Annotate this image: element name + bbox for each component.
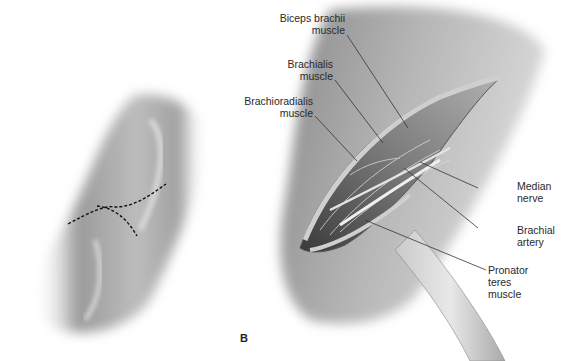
label-median-nerve: Median nerve xyxy=(517,180,569,204)
panel-letter: B xyxy=(240,332,248,344)
label-brachial-artery: Brachial artery xyxy=(517,224,569,248)
label-brachialis: Brachialis muscle xyxy=(255,58,333,82)
illustration xyxy=(0,0,570,361)
panel-a-arm xyxy=(35,94,206,332)
label-pronator-teres: Pronator teres muscle xyxy=(488,264,548,300)
label-biceps-brachii: Biceps brachii muscle xyxy=(253,12,345,36)
label-brachioradialis: Brachioradialis muscle xyxy=(228,95,313,119)
figure: Biceps brachii muscle Brachialis muscle … xyxy=(0,0,570,361)
